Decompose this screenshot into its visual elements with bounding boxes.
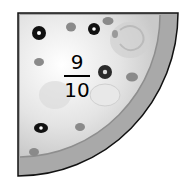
fraction-denominator: 10 — [62, 80, 92, 100]
pizza-slice — [0, 0, 188, 186]
fraction-label: 9 10 — [62, 52, 92, 100]
fraction-numerator: 9 — [62, 52, 92, 72]
fraction-bar — [64, 75, 90, 77]
